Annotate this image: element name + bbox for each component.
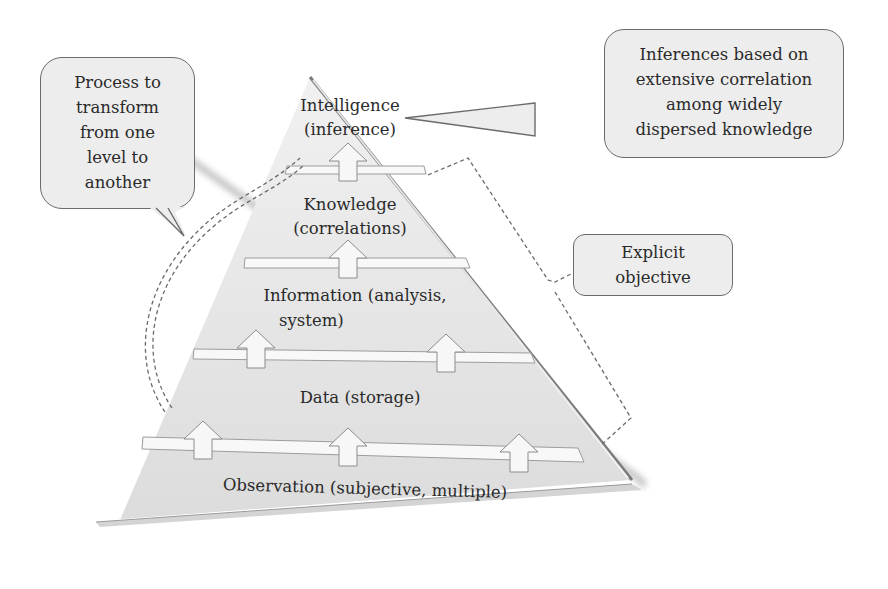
level-sub: system) xyxy=(245,308,465,333)
callout-line: extensive correlation xyxy=(604,67,844,92)
callout-line: from one xyxy=(40,120,195,145)
callout-line: Inferences based on xyxy=(604,42,844,67)
level-sub: (correlations) xyxy=(270,217,430,241)
level-name: Information (analysis, xyxy=(245,283,465,308)
explicit-objective-text: Explicit objective xyxy=(573,240,733,290)
level-name: Intelligence xyxy=(265,94,435,118)
level-sub: (inference) xyxy=(265,118,435,142)
callout-line: transform xyxy=(40,95,195,120)
level-name: Knowledge xyxy=(270,193,430,217)
level-information: Information (analysis, system) xyxy=(245,283,465,333)
level-name: Data (storage) xyxy=(270,387,450,408)
inferences-callout-text: Inferences based on extensive correlatio… xyxy=(604,42,844,142)
process-callout-text: Process to transform from one level to a… xyxy=(40,70,195,195)
level-data: Data (storage) xyxy=(270,387,450,408)
level-knowledge: Knowledge (correlations) xyxy=(270,193,430,241)
callout-line: Process to xyxy=(40,70,195,95)
level-intelligence: Intelligence (inference) xyxy=(265,94,435,142)
callout-line: level to xyxy=(40,145,195,170)
callout-line: dispersed knowledge xyxy=(604,117,844,142)
callout-line: objective xyxy=(573,265,733,290)
callout-line: among widely xyxy=(604,92,844,117)
callout-line: Explicit xyxy=(573,240,733,265)
callout-line: another xyxy=(40,170,195,195)
